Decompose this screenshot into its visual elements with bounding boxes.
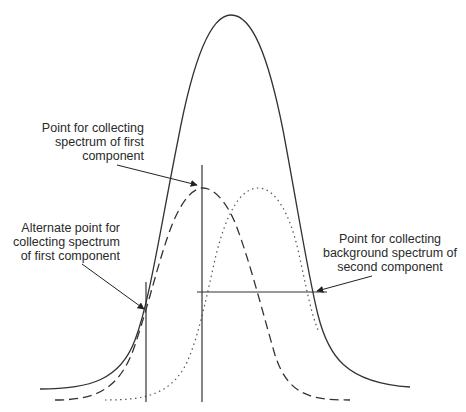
alternate-point-label: Alternate point for collecting spectrum … <box>2 221 120 263</box>
first-point-label: Point for collecting spectrum of first c… <box>34 121 144 163</box>
background-point-label: Point for collecting background spectrum… <box>315 232 465 274</box>
background-point-arrow <box>317 276 372 291</box>
spectrum-diagram <box>0 0 466 412</box>
second-component-curve <box>105 188 318 400</box>
first-point-arrow <box>117 165 197 185</box>
total-signal-curve <box>40 15 410 389</box>
alternate-point-arrow <box>82 264 144 309</box>
